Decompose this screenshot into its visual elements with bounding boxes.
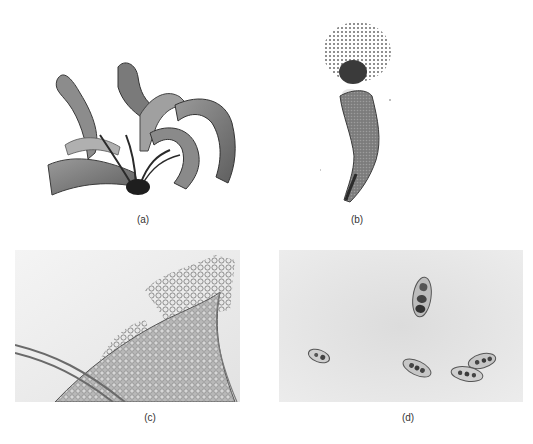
panel-c-label: (c) [130, 412, 170, 423]
panel-c-image [15, 250, 240, 402]
panel-d-image [279, 250, 523, 402]
panel-a-label: (a) [123, 214, 163, 225]
panel-b-image [320, 10, 440, 210]
panel-d-label: (d) [388, 412, 428, 423]
panel-a-image [40, 55, 255, 205]
panel-b-label: (b) [337, 214, 377, 225]
